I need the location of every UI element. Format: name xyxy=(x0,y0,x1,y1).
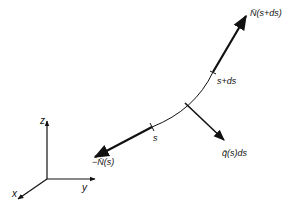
label-s: s xyxy=(153,133,158,143)
label-y: y xyxy=(81,182,88,193)
label-n-bottom: −N̄(s) xyxy=(92,157,114,167)
label-z: z xyxy=(39,115,45,126)
x-axis xyxy=(18,179,47,199)
diagram-svg: N̄(s+ds) s+ds s −N̄(s) q̄(s)ds z y x xyxy=(0,0,292,211)
label-x: x xyxy=(11,188,18,199)
diagram-canvas: N̄(s+ds) s+ds s −N̄(s) q̄(s)ds z y x xyxy=(0,0,292,211)
label-n-top: N̄(s+ds) xyxy=(250,8,282,18)
q-vector xyxy=(185,103,224,140)
label-s-plus-ds: s+ds xyxy=(217,76,237,86)
n-top-vector xyxy=(213,16,246,72)
label-q: q̄(s)ds xyxy=(222,148,248,158)
curve xyxy=(152,72,213,127)
n-bottom-vector xyxy=(95,127,152,157)
